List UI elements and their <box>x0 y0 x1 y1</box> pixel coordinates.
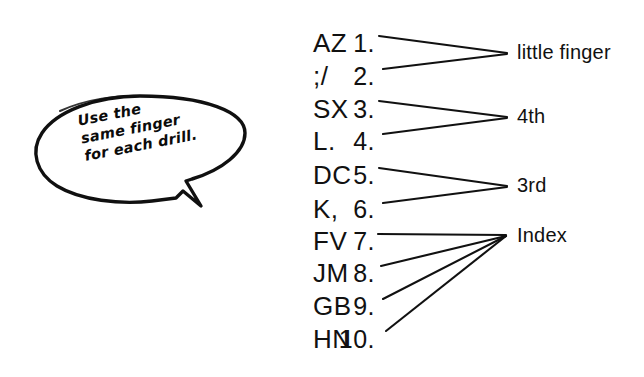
drill-keys: K, <box>313 192 339 226</box>
drill-keys: HN <box>313 322 352 356</box>
drill-keys: ;/ <box>313 59 328 93</box>
drill-keys: FV <box>313 224 347 258</box>
drill-row: 1. AZ <box>245 26 375 60</box>
drill-row: 2. ;/ <box>245 59 375 93</box>
drill-keys: SX <box>313 92 349 126</box>
drill-row: 7. FV <box>245 224 375 258</box>
finger-label-4th: 4th <box>517 105 545 128</box>
finger-label-3rd: 3rd <box>517 174 547 197</box>
finger-label-little-finger: little finger <box>517 41 611 64</box>
drill-keys: L. <box>313 124 336 158</box>
drill-row: 8. JM <box>245 256 375 290</box>
finger-label-index: Index <box>517 224 567 247</box>
leader-lines-little-finger <box>379 36 507 69</box>
drill-keys: AZ <box>313 26 347 60</box>
drill-row: 5. DC <box>245 158 375 192</box>
drill-keys: DC <box>313 158 352 192</box>
leader-lines-3rd <box>379 168 507 203</box>
drill-row: 10. HN <box>245 322 375 356</box>
figure-canvas: Use the same finger for each drill. 1. A… <box>0 0 644 377</box>
drill-keys: JM <box>313 256 349 290</box>
drill-row: 4. L. <box>245 124 375 158</box>
drill-row: 9. GB <box>245 289 375 323</box>
drill-keys: GB <box>313 289 352 323</box>
leader-lines-index <box>378 234 506 331</box>
leader-lines-4th <box>379 101 507 134</box>
drill-row: 6. K, <box>245 192 375 226</box>
drill-row: 3. SX <box>245 92 375 126</box>
